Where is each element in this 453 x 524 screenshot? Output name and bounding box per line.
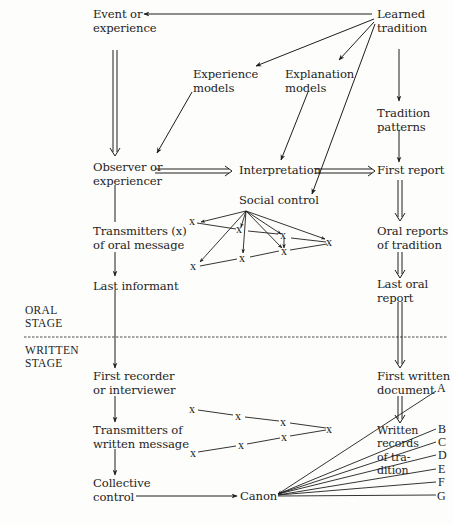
double-arrow-event-to-observer <box>110 50 120 156</box>
double-arrow-first-written-to-records <box>395 396 405 423</box>
node-event-or-experience: Event or experience <box>93 8 157 35</box>
node-transmitters-oral: Transmitters (x) of oral message <box>93 225 187 252</box>
node-interpretation: Interpretation <box>239 164 321 178</box>
node-social-control: Social control <box>239 194 319 208</box>
transmitter-marker: x <box>239 252 245 264</box>
node-transmitters-written: Transmitters of written message <box>93 424 189 451</box>
double-arrow-oral-reports-to-last-oral <box>395 252 405 278</box>
double-arrow-interpretation-to-first-report <box>316 166 375 176</box>
transmitter-marker: x <box>238 439 244 451</box>
document-letter-a: A <box>437 382 446 394</box>
stage-label-oral: ORAL STAGE <box>25 304 63 330</box>
document-letter-e: E <box>438 463 445 475</box>
node-canon: Canon <box>240 490 277 504</box>
written-transmitters-network <box>198 410 326 452</box>
transmitter-marker: x <box>281 431 287 443</box>
arrow-explanation-models-to-interpretation <box>281 92 308 160</box>
node-oral-reports: Oral reports of tradition <box>377 225 448 252</box>
arrow-tradition-to-experience-models <box>256 19 374 66</box>
node-observer-or-experiencer: Observer or experiencer <box>93 161 162 188</box>
double-arrow-observer-to-interpretation <box>155 166 232 176</box>
transmitter-marker: x <box>235 410 241 422</box>
social-control-network <box>197 211 327 266</box>
double-arrow-first-report-to-oral-reports <box>395 180 405 221</box>
transmitter-marker: x <box>326 423 332 435</box>
transmitter-marker: x <box>189 215 195 227</box>
node-written-records: Written records of tra- dition <box>377 424 419 477</box>
document-letter-b: B <box>438 423 446 435</box>
node-first-report: First report <box>377 164 444 178</box>
node-first-recorder: First recorder or interviewer <box>93 370 176 397</box>
node-collective-control: Collective control <box>93 477 150 504</box>
double-arrow-last-oral-to-first-written <box>395 302 405 368</box>
node-last-oral-report: Last oral report <box>377 278 428 305</box>
document-letter-f: F <box>438 476 445 488</box>
transmitter-marker: x <box>189 403 195 415</box>
stage-label-written: WRITTEN STAGE <box>25 344 79 370</box>
document-letter-c: C <box>438 436 446 448</box>
transmitter-marker: x <box>190 260 196 272</box>
node-last-informant: Last informant <box>93 280 179 294</box>
transmitter-marker: x <box>190 447 196 459</box>
transmitter-marker: x <box>280 416 286 428</box>
node-experience-models: Experience models <box>193 68 258 95</box>
document-letter-d: D <box>438 449 447 461</box>
transmitter-marker: x <box>326 236 332 248</box>
transmitter-marker: x <box>280 229 286 241</box>
node-explanation-models: Explanation models <box>285 68 354 95</box>
arrow-experience-models-to-observer <box>157 92 192 153</box>
node-learned-tradition: Learned tradition <box>377 8 427 35</box>
transmitter-marker: x <box>281 245 287 257</box>
transmitter-marker: x <box>236 223 242 235</box>
document-letter-g: G <box>437 490 446 502</box>
node-tradition-patterns: Tradition patterns <box>377 107 430 134</box>
